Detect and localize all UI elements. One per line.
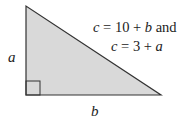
eq2-op: =: [121, 38, 129, 54]
equation-line-1: c = 10 + b and: [93, 19, 177, 35]
eq1-op: =: [103, 19, 111, 35]
eq2-term: a: [156, 38, 163, 54]
side-a-label: a: [8, 50, 16, 65]
eq1-const: 10: [115, 19, 130, 35]
eq1-var: c: [93, 19, 99, 35]
side-b-label: b: [91, 104, 99, 119]
equation-line-2: c = 3 + a: [111, 38, 163, 54]
eq1-plus: +: [133, 19, 141, 35]
eq2-var: c: [111, 38, 117, 54]
eq1-term: b: [145, 19, 152, 35]
eq2-const: 3: [133, 38, 140, 54]
eq2-plus: +: [144, 38, 152, 54]
eq1-suffix: and: [156, 19, 177, 35]
